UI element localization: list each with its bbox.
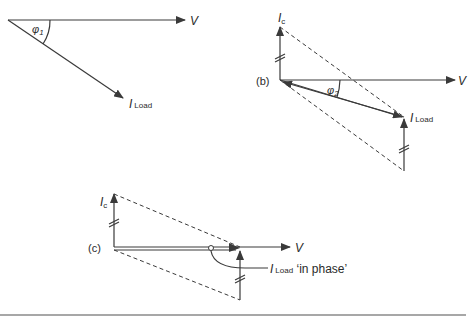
phasor-diagram-figure: V φ1 ILoad (b) V Ic φ2 ILoad (c) (0, 0, 468, 318)
load-current-arrowhead-c (229, 243, 240, 252)
part-b: (b) V Ic φ2 ILoad (256, 11, 467, 171)
ic-label-b: Ic (278, 11, 285, 26)
dashed-line-c2 (114, 250, 240, 300)
phi2-label: φ2 (327, 84, 339, 98)
part-c: (c) Ic V ILoad ‘in phase’ (88, 194, 347, 300)
angle-arc-a (43, 20, 50, 44)
diagram-canvas: V φ1 ILoad (b) V Ic φ2 ILoad (c) (0, 0, 468, 318)
callout-dot (209, 246, 214, 251)
i-load-label-a: ILoad (129, 97, 152, 111)
part-c-label: (c) (88, 242, 101, 254)
i-load-label-b: ILoad (410, 111, 433, 125)
phi1-label: φ1 (32, 23, 44, 37)
load-current-phasor-a (8, 20, 123, 98)
i-load-in-phase-label: ILoad ‘in phase’ (270, 262, 347, 276)
voltage-label-a: V (190, 14, 199, 28)
load-current-phasor-b (280, 80, 402, 117)
ic-label-c: Ic (100, 195, 107, 210)
voltage-label-c: V (295, 241, 304, 255)
part-a: V φ1 ILoad (8, 14, 199, 111)
dashed-line-c1 (114, 194, 240, 247)
dashed-line-b2 (280, 80, 404, 171)
dashed-line-b1 (280, 27, 404, 117)
voltage-label-b: V (458, 74, 467, 88)
part-b-label: (b) (256, 75, 269, 87)
